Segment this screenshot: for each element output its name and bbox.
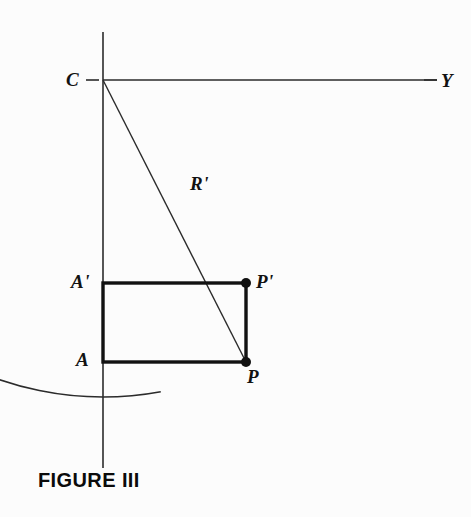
- label-p: P: [247, 367, 259, 386]
- label-c: C: [66, 70, 79, 89]
- label-p-prime: P': [256, 272, 274, 291]
- point-marker-p-prime: [241, 278, 251, 288]
- figure-iii-diagram: C Y R' A' P' A P FIGURE III: [0, 0, 471, 517]
- radius-arc: [0, 0, 161, 397]
- radius-line-r-prime: [103, 80, 246, 362]
- figure-caption: FIGURE III: [38, 470, 140, 490]
- bold-rectangle: [103, 283, 246, 362]
- label-r-prime: R': [190, 174, 209, 193]
- label-a-prime: A': [71, 272, 90, 291]
- label-y: Y: [441, 71, 453, 90]
- label-a: A: [76, 350, 89, 369]
